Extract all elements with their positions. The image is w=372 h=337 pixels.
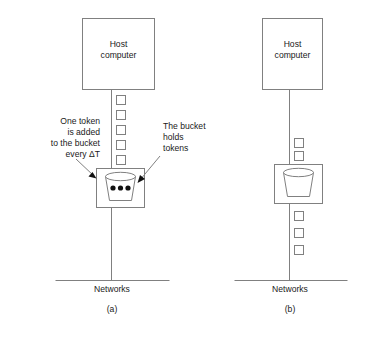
annotation-one-token-added-line1: One token <box>60 116 100 126</box>
network-label-a: Networks <box>94 284 130 294</box>
bucket-rim-a <box>106 172 136 180</box>
bucket-token-dot <box>125 185 130 190</box>
network-label-b: Networks <box>272 284 308 294</box>
annotation-bucket-holds-line3: tokens <box>163 143 188 153</box>
panel-caption-a: (a) <box>107 304 118 314</box>
token-square <box>295 229 304 238</box>
token-square <box>117 96 126 105</box>
token-square <box>117 141 126 150</box>
annotation-one-token-added-line3: to the bucket <box>51 138 101 148</box>
token-square <box>295 139 304 148</box>
token-square <box>295 246 304 255</box>
panel-b: Host computer Networks (b) <box>235 19 348 315</box>
token-square <box>295 152 304 161</box>
token-square <box>117 156 126 165</box>
annotation-one-token-added-line2: is added <box>68 127 101 137</box>
bucket-token-dot <box>118 185 123 190</box>
host-computer-label-a-line2: computer <box>101 50 137 60</box>
host-computer-label-a-line1: Host <box>110 39 128 49</box>
annotation-bucket-holds-line2: holds <box>163 132 184 142</box>
annotation-bucket-holds-line1: The bucket <box>163 121 206 131</box>
token-square <box>295 212 304 221</box>
host-computer-label-b-line2: computer <box>275 50 311 60</box>
token-bucket-figure: Host computer Networks (a) One token is … <box>0 0 372 337</box>
panel-a: Host computer Networks (a) One token is … <box>51 19 206 315</box>
host-computer-label-b-line1: Host <box>284 39 302 49</box>
annotation-one-token-added-line4: every ΔT <box>66 149 101 159</box>
bucket-token-dot <box>110 185 115 190</box>
bucket-rim-b <box>284 168 314 176</box>
token-square <box>117 111 126 120</box>
annotation-arrowhead-left-a <box>89 172 97 179</box>
panel-caption-b: (b) <box>285 304 296 314</box>
token-square <box>117 126 126 135</box>
